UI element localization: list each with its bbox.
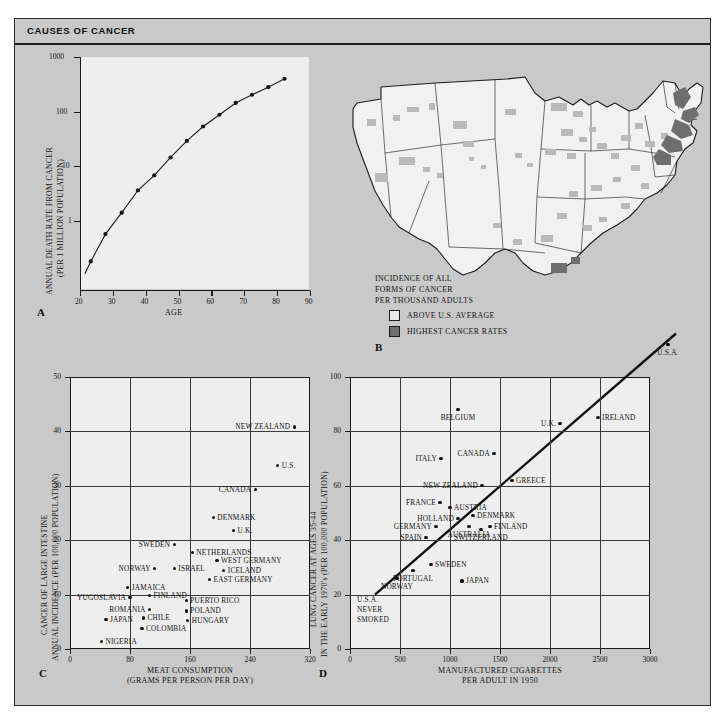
- grid-line-horizontal: [350, 431, 650, 432]
- d-xtick-label: 1500: [493, 655, 508, 664]
- data-point-label: NORWAY: [119, 564, 151, 573]
- data-point: [254, 488, 257, 491]
- data-point-label: U.S.: [282, 461, 296, 470]
- data-point-label: CHILE: [148, 613, 170, 622]
- panel-a-xtick-label: 90: [305, 297, 313, 306]
- data-point: [479, 528, 482, 531]
- d-xtick-label: 2500: [593, 655, 608, 664]
- data-point: [460, 579, 463, 582]
- d-ytick-label: 0: [337, 644, 341, 653]
- grid-line-horizontal: [70, 540, 310, 541]
- panel-a-ytick-label: 100: [56, 107, 67, 116]
- data-point: [148, 594, 151, 597]
- grid-line-vertical: [400, 377, 401, 649]
- panel-a-ytick-label: 1: [68, 216, 72, 225]
- panel-a-xtick-label: 70: [239, 297, 247, 306]
- c-ytick: [65, 377, 70, 378]
- data-point: [185, 609, 188, 612]
- d-ytick: [345, 595, 350, 596]
- panel-b-caption-line1: INCIDENCE OF ALL: [375, 274, 452, 283]
- data-point-label: ROMANIA: [109, 605, 145, 614]
- data-point-label: U.K.: [238, 526, 253, 535]
- grid-line-horizontal: [350, 595, 650, 596]
- data-point: [185, 599, 188, 602]
- data-point: [142, 616, 145, 619]
- panel-a-ytick: [74, 112, 81, 113]
- data-point-label: WEST GERMANY: [221, 556, 282, 565]
- panel-a-xtick: [277, 291, 278, 296]
- panel-a-xlabel: AGE: [165, 308, 182, 317]
- panel-a-xtick-label: 50: [174, 297, 182, 306]
- d-ytick-label: 40: [334, 535, 342, 544]
- c-xtick: [130, 649, 131, 654]
- data-point: [411, 569, 414, 572]
- panel-a-xtick-label: 40: [141, 297, 149, 306]
- data-point: [395, 577, 398, 580]
- data-point: [480, 484, 483, 487]
- grid-line-horizontal: [350, 486, 650, 487]
- data-point: [191, 551, 194, 554]
- data-point-label: DENMARK: [217, 513, 255, 522]
- panel-a-x-axis: [80, 290, 310, 291]
- data-point: [140, 627, 143, 630]
- data-point-label: NIGERIA: [106, 637, 137, 646]
- c-xtick-label: 160: [184, 655, 195, 664]
- d-ytick-label: 20: [334, 590, 342, 599]
- panel-a-ylabel-line2: (PER 1 MILLION POPULATION): [56, 159, 65, 277]
- data-point-label: JAPAN: [466, 576, 489, 585]
- data-point: [492, 452, 495, 455]
- data-point: [488, 525, 491, 528]
- data-point: [456, 517, 459, 520]
- data-point: [232, 529, 235, 532]
- data-point-label: COLOMBIA: [146, 624, 187, 633]
- c-ytick: [65, 595, 70, 596]
- data-point-label: GREECE: [516, 476, 546, 485]
- data-point-label: NORWAY: [381, 582, 413, 591]
- panel-a-y-axis: [80, 57, 81, 291]
- panel-a-xtick-label: 30: [108, 297, 116, 306]
- d-xtick: [500, 649, 501, 654]
- data-point: [448, 506, 451, 509]
- data-point-label: CANADA: [458, 449, 490, 458]
- d-xtick-label: 0: [348, 655, 352, 664]
- data-point: [212, 516, 215, 519]
- panel-a-xtick: [146, 291, 147, 296]
- panel-a-ytick: [74, 57, 81, 58]
- c-ytick-label: 10: [54, 590, 62, 599]
- panel-a-ytick: [74, 166, 81, 167]
- map-svg: [345, 57, 711, 295]
- d-ytick-label: 100: [330, 372, 341, 381]
- d-xtick: [450, 649, 451, 654]
- panel-a-ylabel-line1: ANNUAL DEATH RATE FROM CANCER: [45, 147, 54, 295]
- data-point: [128, 596, 131, 599]
- data-point-label: U.K.: [541, 419, 556, 428]
- data-point-label: DENMARK: [477, 511, 515, 520]
- data-point: [434, 525, 437, 528]
- d-xtick-label: 500: [394, 655, 405, 664]
- panel-d-data-layer: 204060800100500100015002000250003000U.S.…: [295, 355, 711, 707]
- c-xtick: [250, 649, 251, 654]
- c-ytick-label: 0: [57, 644, 61, 653]
- data-point-label: CANADA: [219, 485, 251, 494]
- data-point-label: NEW ZEALAND: [423, 481, 478, 490]
- data-point: [100, 640, 103, 643]
- panel-b-letter: B: [375, 341, 382, 353]
- legend-swatch-highest-rates: [389, 326, 400, 337]
- data-point: [471, 514, 474, 517]
- legend-swatch-above-average: [389, 310, 400, 321]
- data-point-label: ICELAND: [228, 566, 261, 575]
- c-xtick-label: 240: [244, 655, 255, 664]
- d-ytick-label: 60: [334, 481, 342, 490]
- panel-a-letter: A: [37, 306, 45, 318]
- d-xtick: [550, 649, 551, 654]
- c-ytick: [65, 486, 70, 487]
- c-ytick-label: 20: [54, 535, 62, 544]
- data-point-label: GERMANY: [394, 522, 432, 531]
- data-point: [173, 543, 176, 546]
- data-point: [208, 578, 211, 581]
- data-point-label: FINLAND: [154, 591, 187, 600]
- data-point-label: JAPAN: [110, 615, 133, 624]
- panel-a-xtick: [244, 291, 245, 296]
- data-point: [666, 343, 669, 346]
- c-ytick-label: 50: [54, 372, 62, 381]
